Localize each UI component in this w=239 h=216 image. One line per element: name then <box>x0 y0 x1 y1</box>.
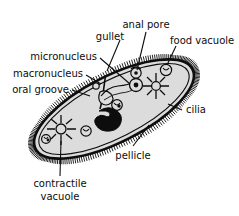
label-food-vacuole: food vacuole <box>170 35 234 46</box>
label-cilia: cilia <box>186 104 206 115</box>
macronucleus <box>95 108 122 131</box>
label-anal-pore: anal pore <box>122 19 169 30</box>
diagram-canvas: anal pore gullet food vacuole micronucle… <box>0 0 239 216</box>
label-gullet: gullet <box>96 31 124 42</box>
label-oral-groove: oral groove <box>12 84 69 95</box>
micronucleus-core <box>134 83 139 88</box>
label-contractile-vacuole-line1: contractile <box>33 178 86 189</box>
label-macronucleus: macronucleus <box>13 68 83 79</box>
paramecium-diagram: anal pore gullet food vacuole micronucle… <box>0 0 239 216</box>
label-pellicle: pellicle <box>115 150 150 161</box>
anal-pore-dot <box>134 71 138 75</box>
label-micronucleus: micronucleus <box>30 51 97 62</box>
label-contractile-vacuole-line2: vacuole <box>41 191 80 202</box>
